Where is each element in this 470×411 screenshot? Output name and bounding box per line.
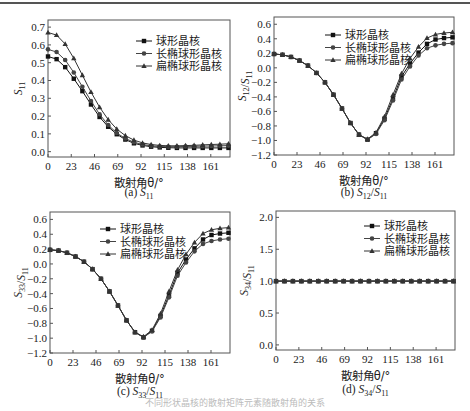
y-tick-label: 0.5: [259, 307, 273, 319]
y-tick-label: 0.0: [259, 339, 273, 351]
legend-entry: 球形晶核: [384, 219, 428, 233]
x-tick-label: 138: [405, 353, 422, 365]
figure-caption: 不同形状晶核的散射矩阵元素随散射角的关系: [0, 396, 470, 409]
y-tick-label: 1.5: [259, 243, 273, 255]
legend-entry: 扁椭球形晶核: [384, 244, 450, 258]
x-tick-label: 92: [362, 353, 373, 365]
x-tick-label: 161: [428, 353, 445, 365]
y-tick-label: 1.0: [259, 275, 273, 287]
legend: 球形晶核长椭球形晶核扁椭球形晶核: [364, 219, 450, 258]
x-tick-label: 23: [293, 353, 305, 365]
x-tick-label: 115: [382, 353, 399, 365]
y-axis-title: S34/S11: [238, 265, 256, 295]
x-tick-label: 0: [273, 353, 279, 365]
x-tick-label: 46: [316, 353, 328, 365]
chart-panel-d: 0234669921151381610.00.51.01.52.0散射角θ/°S…: [0, 0, 470, 411]
x-axis-title: 散射角θ/°: [341, 369, 391, 383]
legend-entry: 长椭球形晶核: [384, 232, 450, 246]
y-tick-label: 2.0: [259, 211, 273, 223]
x-tick-label: 69: [339, 353, 351, 365]
